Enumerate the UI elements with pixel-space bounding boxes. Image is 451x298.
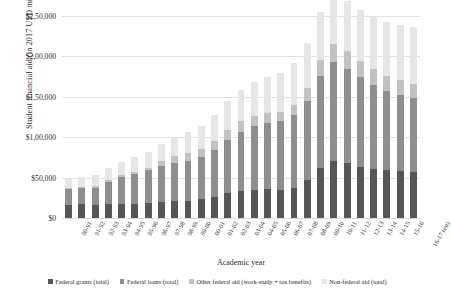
bar-segment (383, 91, 390, 170)
bar-stack (304, 43, 311, 218)
bar-segment (291, 105, 298, 115)
bar-segment (383, 170, 390, 218)
x-tick-label: 00-01 (212, 220, 226, 236)
bar-segment (185, 201, 192, 218)
bar-stack (277, 73, 284, 218)
x-tick-label: 99-00 (199, 220, 213, 236)
bar-segment (410, 27, 417, 84)
x-tick-label: 04-05 (265, 220, 279, 236)
x-tick-label: 07-08 (305, 220, 319, 236)
x-tick-label: 10-11 (345, 220, 358, 236)
bar-segment (105, 182, 112, 204)
bar-segment (171, 137, 178, 156)
bar-segment (171, 163, 178, 201)
bar-segment (277, 190, 284, 218)
bar-segment (92, 205, 99, 218)
bar-segment (118, 204, 125, 218)
bar-segment (317, 60, 324, 77)
bar-segment (158, 144, 165, 161)
bars-layer (62, 16, 420, 218)
x-tick-label: 95-96 (146, 220, 160, 236)
bar-stack (145, 152, 152, 218)
bar-segment (211, 141, 218, 150)
bar-segment (78, 177, 85, 187)
x-tick-label: 94-95 (133, 220, 147, 236)
y-tick-label: $1,00,000 (0, 133, 56, 142)
bar-stack (410, 27, 417, 218)
bar-segment (357, 10, 364, 61)
bar-segment (291, 63, 298, 105)
bar-segment (344, 69, 351, 164)
bar-segment (304, 43, 311, 88)
bar-stack (211, 115, 218, 218)
bar-segment (224, 101, 231, 130)
y-tick-label: $2,00,000 (0, 52, 56, 61)
bar-stack (131, 157, 138, 218)
bar-segment (118, 162, 125, 175)
legend-label: Other federal aid (work-study + tax bene… (196, 278, 311, 285)
bar-segment (238, 132, 245, 191)
bar-segment (224, 140, 231, 194)
bar-stack (317, 12, 324, 218)
legend-swatch-icon (120, 279, 125, 284)
bar-segment (251, 116, 258, 127)
gridline (62, 218, 420, 219)
y-tick-label: $1,50,000 (0, 93, 56, 102)
x-tick-label: 14-15 (398, 220, 412, 236)
x-tick-label: 91-92 (93, 220, 107, 236)
y-axis-title: Student financial aid (in 2017 USD milli… (25, 0, 35, 143)
x-tick-label: 06-07 (292, 220, 306, 236)
x-tick-label: 92-93 (106, 220, 120, 236)
x-tick-label: 01-02 (225, 220, 239, 236)
bar-segment (330, 62, 337, 161)
bar-segment (238, 121, 245, 132)
bar-segment (344, 51, 351, 69)
bar-segment (397, 80, 404, 95)
bar-segment (65, 178, 72, 187)
bar-stack (105, 168, 112, 218)
bar-segment (105, 168, 112, 180)
bar-segment (65, 189, 72, 205)
legend-label: Federal grants (total) (55, 278, 109, 285)
x-tick-label: 97-98 (172, 220, 186, 236)
bar-segment (171, 201, 178, 218)
legend-item: Non-federal aid (total) (322, 278, 387, 285)
bar-segment (291, 188, 298, 218)
bar-segment (145, 203, 152, 218)
x-axis-ticks: 90-9191-9292-9393-9494-9595-9696-9797-98… (62, 220, 420, 256)
bar-stack (224, 101, 231, 218)
y-tick-label: $50,000 (0, 174, 56, 183)
x-tick-label: 08-09 (318, 220, 332, 236)
bar-segment (131, 174, 138, 204)
bar-segment (264, 189, 271, 218)
bar-segment (185, 161, 192, 201)
bar-segment (344, 163, 351, 218)
bar-stack (198, 126, 205, 218)
legend-swatch-icon (322, 279, 327, 284)
bar-stack (78, 177, 85, 219)
x-axis-title: Academic year (62, 258, 420, 267)
bar-segment (357, 167, 364, 218)
legend-label: Non-federal aid (total) (329, 278, 387, 285)
bar-segment (158, 166, 165, 202)
legend-swatch-icon (48, 279, 53, 284)
bar-segment (357, 77, 364, 166)
x-tick-label: 93-94 (119, 220, 133, 236)
x-tick-label: 96-97 (159, 220, 173, 236)
x-tick-label: 12-13 (371, 220, 385, 236)
bar-segment (224, 193, 231, 218)
bar-segment (211, 115, 218, 140)
bar-stack (344, 1, 351, 218)
bar-segment (224, 130, 231, 140)
bar-segment (131, 157, 138, 172)
legend-item: Other federal aid (work-study + tax bene… (189, 278, 311, 285)
bar-segment (264, 123, 271, 189)
bar-segment (185, 153, 192, 161)
x-tick-label: 05-06 (278, 220, 292, 236)
bar-segment (370, 169, 377, 218)
bar-segment (145, 152, 152, 168)
bar-segment (65, 205, 72, 218)
bar-stack (185, 132, 192, 218)
bar-segment (238, 90, 245, 121)
bar-segment (317, 12, 324, 59)
